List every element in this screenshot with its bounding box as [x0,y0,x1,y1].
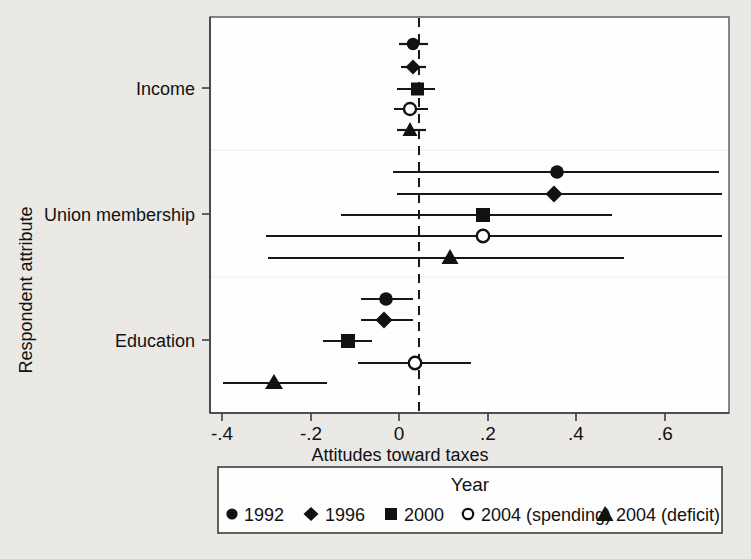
x-tick-label-3: .2 [480,423,496,444]
legend-label-2004-spending: 2004 (spending) [481,505,611,525]
legend-label-1996: 1996 [325,505,365,525]
x-tick-label-4: .4 [568,423,584,444]
marker-filled-square [476,208,490,222]
y-tick-label-union-membership: Union membership [44,205,195,225]
legend-title: Year [451,474,490,495]
marker-filled-square [341,334,355,348]
y-tick-label-education: Education [115,331,195,351]
marker-filled-square [411,83,424,96]
legend-marker-filled-square-icon [385,508,397,520]
marker-open-circle [404,103,416,115]
coefficient-plot-svg: -.4 -.2 0 .2 .4 .6 Attitudes toward taxe… [0,0,751,559]
legend: Year 1992 1996 2000 2004 (spending) [218,467,722,533]
x-tick-label-1: -.2 [300,423,322,444]
legend-label-1992: 1992 [244,505,284,525]
x-tick-label-5: .6 [657,423,673,444]
y-tick-label-income: Income [136,79,195,99]
legend-label-2004-deficit: 2004 (deficit) [616,505,720,525]
legend-item-2004-deficit[interactable]: 2004 (deficit) [597,505,721,525]
y-axis-title: Respondent attribute [16,206,36,373]
marker-filled-circle [550,165,564,179]
legend-marker-open-circle-icon [463,509,473,519]
marker-filled-circle [379,292,393,306]
x-tick-label-0: -.4 [211,423,234,444]
marker-open-circle [477,230,489,242]
legend-label-2000: 2000 [404,505,444,525]
legend-item-2004-spending[interactable]: 2004 (spending) [463,505,611,525]
x-axis-title: Attitudes toward taxes [311,445,488,465]
chart-figure: -.4 -.2 0 .2 .4 .6 Attitudes toward taxe… [0,0,751,559]
legend-marker-filled-circle-icon [226,508,237,519]
marker-filled-circle [407,38,419,50]
x-tick-label-2: 0 [394,423,405,444]
marker-open-circle [409,357,421,369]
